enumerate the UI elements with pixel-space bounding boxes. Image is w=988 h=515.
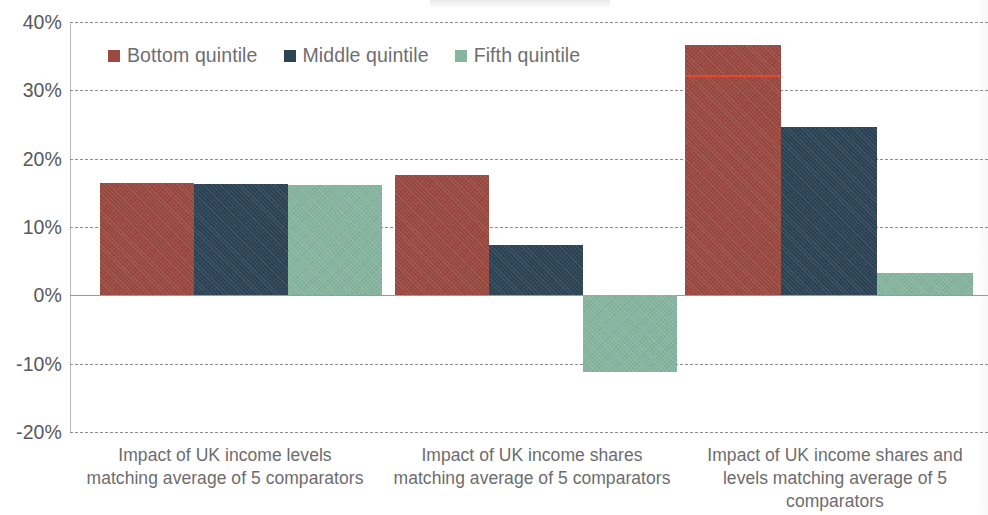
legend-item-fifth-quintile: Fifth quintile <box>455 44 581 67</box>
y-tick-label: -10% <box>0 352 62 375</box>
bar-texture <box>288 185 382 295</box>
legend-label: Fifth quintile <box>474 44 581 67</box>
cropped-title-edge <box>430 0 610 9</box>
bar-texture <box>100 183 194 295</box>
x-category-line: comparators <box>682 490 988 513</box>
legend-swatch-icon <box>455 50 467 62</box>
bar-texture <box>877 273 973 295</box>
y-tick-label: 40% <box>0 11 62 34</box>
chart-legend: Bottom quintile Middle quintile Fifth qu… <box>108 44 580 67</box>
gridline-minus-20 <box>70 432 988 433</box>
x-category-line: levels matching average of 5 <box>682 467 988 490</box>
x-category-line: matching average of 5 comparators <box>70 467 380 490</box>
x-category-label-1: Impact of UK income levels matching aver… <box>70 444 380 490</box>
bar-texture <box>395 175 489 295</box>
x-category-line: matching average of 5 comparators <box>377 467 687 490</box>
bar-chart: 40% 30% 20% 10% 0% -10% -20% Bottom quin… <box>0 0 988 515</box>
x-axis-category-labels: Impact of UK income levels matching aver… <box>70 444 988 515</box>
legend-swatch-icon <box>108 50 120 62</box>
x-category-line: Impact of UK income shares and <box>682 444 988 467</box>
bar-texture <box>583 295 677 372</box>
x-category-label-2: Impact of UK income shares matching aver… <box>377 444 687 490</box>
bar-middle-quintile-group-1 <box>194 184 288 295</box>
bar-texture <box>685 45 781 296</box>
annotation-hline <box>685 75 781 77</box>
y-tick-label: 20% <box>0 147 62 170</box>
y-tick-label: -20% <box>0 421 62 444</box>
y-tick-label: 10% <box>0 216 62 239</box>
legend-label: Middle quintile <box>303 44 429 67</box>
bar-texture <box>489 245 583 295</box>
gridline-40 <box>70 22 988 23</box>
x-category-label-3: Impact of UK income shares and levels ma… <box>682 444 988 513</box>
x-category-line: Impact of UK income shares <box>377 444 687 467</box>
plot-area <box>70 22 988 432</box>
bar-fifth-quintile-group-3 <box>877 273 973 295</box>
bar-fifth-quintile-group-2 <box>583 295 677 372</box>
bar-bottom-quintile-group-1 <box>100 183 194 295</box>
gridline-30 <box>70 90 988 91</box>
bar-bottom-quintile-group-3 <box>685 45 781 296</box>
legend-label: Bottom quintile <box>127 44 258 67</box>
gridline-minus-10 <box>70 364 988 365</box>
y-tick-label: 0% <box>0 284 62 307</box>
bar-texture <box>194 184 288 295</box>
y-axis-tick-labels: 40% 30% 20% 10% 0% -10% -20% <box>0 22 62 432</box>
y-tick-label: 30% <box>0 79 62 102</box>
bar-middle-quintile-group-2 <box>489 245 583 295</box>
gridline-zero <box>70 295 988 296</box>
x-category-line: Impact of UK income levels <box>70 444 380 467</box>
legend-item-middle-quintile: Middle quintile <box>284 44 429 67</box>
bar-fifth-quintile-group-1 <box>288 185 382 295</box>
legend-swatch-icon <box>284 50 296 62</box>
legend-item-bottom-quintile: Bottom quintile <box>108 44 258 67</box>
bar-texture <box>781 127 877 296</box>
bar-bottom-quintile-group-2 <box>395 175 489 295</box>
bar-middle-quintile-group-3 <box>781 127 877 296</box>
